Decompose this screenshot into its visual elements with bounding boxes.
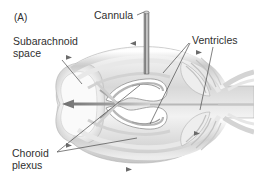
cannula-cap — [144, 11, 149, 14]
leader-cannula — [137, 12, 144, 15]
label-choroid-plexus: Choroid plexus — [12, 148, 49, 171]
cannula-tube — [144, 12, 149, 74]
cannula — [144, 11, 149, 74]
label-ventricles: Ventricles — [192, 35, 238, 47]
flow-arrow-bottom — [126, 167, 132, 172]
panel-letter: (A) — [14, 12, 27, 24]
label-cannula: Cannula — [94, 10, 133, 22]
label-subarachnoid-space: Subarachnoid space — [13, 36, 78, 59]
figure-panel-a: (A) Subarachnoid space Cannula Ventricle… — [0, 0, 254, 191]
flow-arrow-top-left — [130, 41, 136, 46]
csf-channel-extension — [218, 103, 254, 106]
flow-arrow-upper-right — [196, 50, 202, 55]
